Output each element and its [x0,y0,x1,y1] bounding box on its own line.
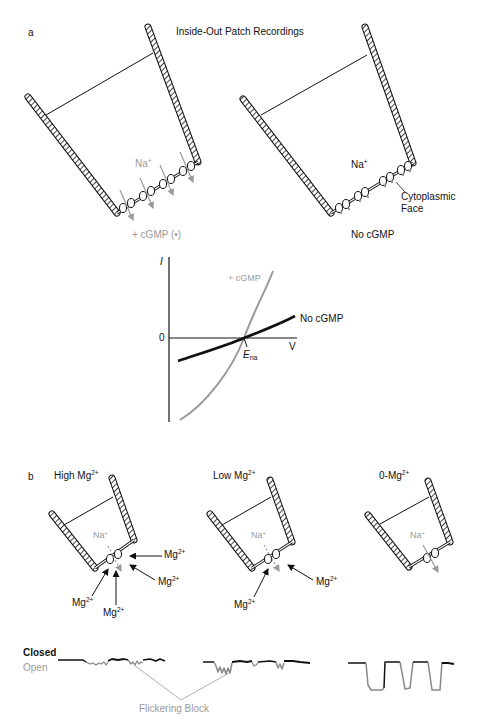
trace-low-mg [203,661,310,674]
na-label-low: Na+ [251,531,266,540]
na-charge: + [422,530,425,536]
na-text: Na [410,530,422,540]
mg-charge: 2+ [117,606,124,613]
na-label-right: Na+ [351,160,368,170]
mg-label-high-4: Mg2+ [103,608,124,618]
face-label: Face [401,204,423,214]
curve-cgmp-label: + cGMP [228,274,261,283]
na-text: Na [251,530,263,540]
e-na-label: Ena [243,350,257,360]
title-zero-mg: 0-Mg2+ [379,471,409,481]
na-label-left: Na+ [135,159,152,169]
na-label-zero: Na+ [410,531,425,540]
caption-no-cgmp: No cGMP [351,230,394,240]
flickering-block-label: Flickering Block [139,704,209,714]
iv-x-axis-label: V [289,342,296,352]
mg-text: Mg [316,576,330,587]
trace-closed-label: Closed [23,648,56,658]
mg-label-high-3: Mg2+ [72,598,93,608]
trace-open-label: Open [23,663,47,673]
title-low-mg: Low Mg2+ [213,471,255,481]
mg-text: Mg [158,576,172,587]
mg-text: Mg [103,607,117,618]
caption-cgmp: + cGMP (•) [132,230,181,240]
mg-charge: 2+ [330,575,337,582]
na-subscript: na [250,354,258,361]
panel-a-title: Inside-Out Patch Recordings [176,27,304,37]
na-text: Na [93,530,105,540]
mg-charge: 2+ [86,596,93,603]
cytoplasmic-label: Cytoplasmic [401,192,455,202]
iv-y-axis-label: I [160,257,163,267]
pipette-high-mg [52,478,162,605]
na-charge: + [263,530,266,536]
mg-text: Mg [164,549,178,560]
na-text: Na [135,158,148,169]
title-high-mg: High Mg2+ [54,471,99,481]
charge: 2+ [248,469,255,476]
diagram-canvas [0,0,480,725]
na-charge: + [364,158,368,165]
iv-origin-label: 0 [159,333,165,343]
pipette-left-cgmp [28,27,198,220]
trace-high-mg [58,659,165,665]
panel-a-letter: a [28,28,34,38]
na-label-high: Na+ [93,531,108,540]
title-text: Low Mg [213,470,248,481]
mg-charge: 2+ [248,598,255,605]
title-text: High Mg [54,470,91,481]
mg-label-low-1: Mg2+ [316,577,337,587]
mg-charge: 2+ [178,548,185,555]
na-charge: + [148,157,152,164]
flickering-block-leaders [134,665,229,700]
mg-label-high-1: Mg2+ [164,550,185,560]
mg-label-low-2: Mg2+ [234,600,255,610]
pipette-right-no-cgmp [243,27,413,214]
charge: 2+ [91,469,98,476]
charge: 2+ [402,469,409,476]
mg-label-high-2: Mg2+ [158,577,179,587]
title-text: 0-Mg [379,470,402,481]
na-text: Na [351,159,364,170]
mg-text: Mg [234,599,248,610]
panel-b-letter: b [28,472,34,482]
trace-zero-mg [348,662,454,690]
mg-text: Mg [72,597,86,608]
curve-no-cgmp-label: No cGMP [300,314,343,324]
mg-charge: 2+ [172,575,179,582]
e-text: E [243,349,250,360]
na-charge: + [105,530,108,536]
pipette-zero-mg [368,481,450,572]
